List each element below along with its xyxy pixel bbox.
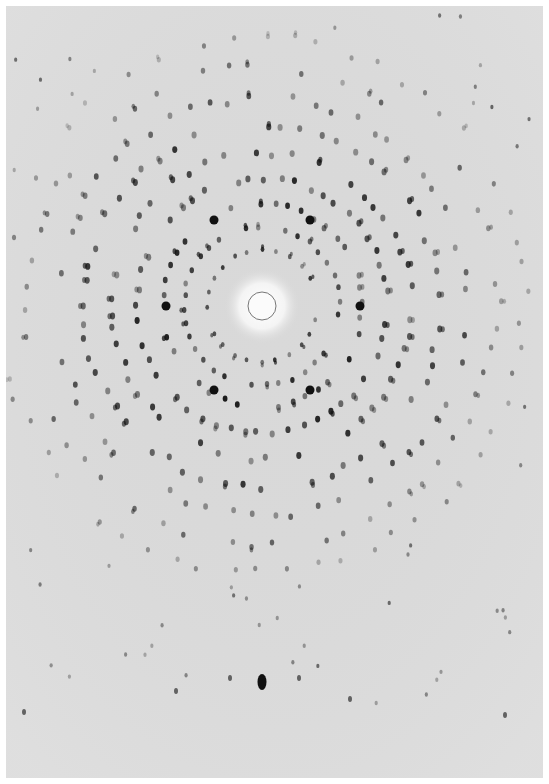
diffraction-spot <box>55 473 59 479</box>
diffraction-spot <box>83 263 87 269</box>
diffraction-spot <box>138 166 143 173</box>
diffraction-spot <box>243 432 247 438</box>
diffraction-spot <box>405 346 409 352</box>
diffraction-spot <box>184 673 187 677</box>
diffraction-spot <box>303 262 306 266</box>
diffraction-spot <box>387 501 391 507</box>
diffraction-spot <box>315 416 320 423</box>
diffraction-spot <box>295 233 299 239</box>
diffraction-spot <box>506 400 510 406</box>
diffraction-spot <box>410 196 414 202</box>
diffraction-spot <box>370 204 375 211</box>
diffraction-spot <box>285 566 289 572</box>
diffraction-spot <box>148 132 153 138</box>
diffraction-spot <box>81 191 85 197</box>
diffraction-spot <box>373 131 378 137</box>
diffraction-spot <box>401 248 405 254</box>
diffraction-spot <box>389 288 393 294</box>
diffraction-spot <box>113 116 117 122</box>
diffraction-spot <box>377 262 382 269</box>
diffraction-spot <box>496 609 499 613</box>
diffraction-spot <box>435 678 438 682</box>
diffraction-spot <box>501 608 504 612</box>
diffraction-spot <box>207 289 211 294</box>
diffraction-spot <box>285 426 290 433</box>
diffraction-spot <box>227 63 231 69</box>
diffraction-spot <box>367 234 371 240</box>
diffraction-spot <box>276 616 279 620</box>
diffraction-spot <box>502 299 506 304</box>
diffraction-spot <box>316 664 319 668</box>
diffraction-spot <box>134 287 138 293</box>
diffraction-spot <box>225 101 230 107</box>
diffraction-spot <box>259 198 263 204</box>
diffraction-spot <box>156 156 160 162</box>
diffraction-spot <box>203 503 208 509</box>
diffraction-spot <box>495 326 499 332</box>
diffraction-spot <box>232 35 236 41</box>
diffraction-spot <box>381 275 386 282</box>
diffraction-spot <box>290 377 294 383</box>
diffraction-spot <box>156 55 159 60</box>
diffraction-spot <box>147 356 152 363</box>
diffraction-spot <box>311 482 315 488</box>
diffraction-spot <box>81 335 86 342</box>
diffraction-spot <box>285 202 290 208</box>
diffraction-spot <box>409 396 414 403</box>
diffraction-spot <box>372 407 376 413</box>
diffraction-spot <box>36 107 39 111</box>
diffraction-spot <box>464 269 469 275</box>
diffraction-spot <box>312 360 316 366</box>
diffraction-spot <box>278 124 283 131</box>
diffraction-spot <box>25 284 29 290</box>
diffraction-spot <box>183 281 187 287</box>
diffraction-spot <box>162 292 167 298</box>
strong-reflection <box>210 216 219 225</box>
diffraction-spot <box>338 299 342 305</box>
diffraction-spot <box>412 517 416 523</box>
diffraction-spot <box>12 235 16 241</box>
diffraction-spot <box>96 522 99 527</box>
diffraction-spot <box>270 540 274 546</box>
diffraction-spot <box>368 477 373 483</box>
diffraction-spot <box>161 520 165 526</box>
diffraction-spot <box>14 57 17 61</box>
diffraction-spot <box>294 30 297 35</box>
diffraction-spot <box>493 281 497 287</box>
diffraction-spot <box>235 401 240 407</box>
diffraction-spot <box>376 59 380 65</box>
diffraction-spot <box>517 320 521 326</box>
diffraction-spot <box>68 57 71 61</box>
diffraction-spot <box>320 132 325 139</box>
diffraction-spot <box>516 144 519 148</box>
diffraction-spot <box>109 324 114 331</box>
diffraction-spot <box>410 282 415 289</box>
diffraction-spot <box>504 615 507 619</box>
diffraction-spot <box>333 26 336 30</box>
diffraction-spot <box>144 253 148 259</box>
diffraction-spot <box>65 123 68 128</box>
diffraction-spot <box>527 117 530 121</box>
diffraction-spot <box>375 353 380 360</box>
diffraction-spot <box>519 345 523 351</box>
diffraction-spot <box>71 92 74 96</box>
diffraction-spot <box>188 104 193 110</box>
diffraction-spot <box>107 564 110 568</box>
diffraction-spot <box>459 14 462 18</box>
diffraction-spot <box>212 367 216 373</box>
diffraction-spot <box>21 335 25 340</box>
strong-reflection <box>356 302 365 311</box>
diffraction-spot <box>173 396 177 402</box>
diffraction-spot <box>335 236 340 242</box>
diffraction-spot <box>437 111 441 117</box>
diffraction-spot <box>515 240 519 246</box>
diffraction-spot <box>245 596 248 600</box>
diffraction-spot <box>167 453 172 460</box>
diffraction-spot <box>313 39 317 45</box>
diffraction-spot <box>291 660 294 664</box>
diffraction-spot <box>396 361 401 368</box>
diffraction-spot <box>297 125 302 132</box>
diffraction-spot <box>347 210 352 217</box>
diffraction-spot <box>245 175 250 182</box>
diffraction-spot <box>162 335 166 341</box>
